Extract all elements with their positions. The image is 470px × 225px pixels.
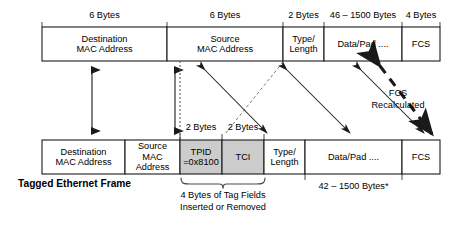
annotation-tag-fields: 4 Bytes of Tag Fields Inserted or Remove… (163, 190, 283, 213)
untagged-size-label-destination-mac: 6 Bytes (42, 10, 167, 20)
untagged-size-ticks (42, 22, 440, 27)
ethernet-frame-diagram: 6 Bytes 6 Bytes 2 Bytes 46 – 1500 Bytes … (0, 0, 470, 225)
tagged-payload-size-label: 42 – 1500 Bytes* (305, 181, 402, 191)
tagged-size-label-tci: 2 Bytes (222, 122, 264, 132)
annotation-tag-fields-line2: Inserted or Removed (163, 202, 283, 214)
annotation-fcs-recalculated-line1: FCS (348, 88, 448, 100)
tag-fields-brace (181, 178, 265, 189)
untagged-cell-destination-mac (42, 27, 167, 61)
tagged-size-ticks (180, 134, 264, 140)
tagged-frame-title: Tagged Ethernet Frame (18, 178, 131, 189)
tagged-cell-source-mac (125, 140, 180, 174)
tagged-cell-destination-mac (42, 140, 125, 174)
untagged-frame-boxes (42, 27, 440, 61)
tagged-frame-boxes (42, 140, 440, 174)
untagged-cell-type-length (283, 27, 324, 61)
tagged-cell-type-length (264, 140, 305, 174)
tagged-cell-tpid (180, 140, 222, 174)
arrow-shift-data-pad (287, 70, 350, 133)
field-correspondence-arrows (92, 70, 175, 131)
untagged-cell-data-pad (324, 27, 402, 61)
annotation-fcs-recalculated: FCS Recalculated (348, 88, 448, 111)
tagged-cell-data-pad (305, 140, 402, 174)
tagged-cell-fcs (402, 140, 440, 174)
annotation-fcs-recalculated-line2: Recalculated (348, 100, 448, 112)
untagged-cell-source-mac (167, 27, 283, 61)
untagged-size-label-source-mac: 6 Bytes (167, 10, 283, 20)
untagged-size-label-data-pad: 46 – 1500 Bytes (324, 10, 402, 20)
tagged-cell-tci (222, 140, 264, 174)
tagged-payload-span-ticks (305, 174, 402, 180)
untagged-size-label-fcs: 4 Bytes (402, 10, 440, 20)
annotation-tag-fields-line1: 4 Bytes of Tag Fields (163, 190, 283, 202)
tagged-size-label-tpid: 2 Bytes (180, 122, 222, 132)
untagged-cell-fcs (402, 27, 440, 61)
